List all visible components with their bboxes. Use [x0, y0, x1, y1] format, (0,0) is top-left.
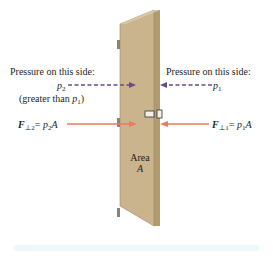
right-pressure-heading: Pressure on this side: [166, 66, 251, 77]
bottom-strip [14, 245, 259, 251]
right-force-label: F⊥1= p1A [212, 119, 252, 130]
door-handle-icon [157, 110, 162, 118]
left-force-label: F⊥2= p2A [18, 119, 58, 130]
hinge-middle-icon [117, 118, 120, 127]
door-area-label: Area A [128, 152, 152, 174]
door-face [120, 10, 154, 226]
right-pressure-label: p1 [213, 80, 222, 91]
hinge-bottom-icon [117, 208, 120, 217]
left-pressure-label: p2 [57, 80, 66, 91]
left-pressure-note: (greater than p1) [19, 93, 84, 104]
hinge-top-icon [117, 40, 120, 49]
left-pressure-heading: Pressure on this side: [10, 66, 95, 77]
door-diagram [0, 0, 273, 261]
pressure-arrowhead-right-icon [160, 82, 167, 88]
force-arrowhead-right-icon [160, 121, 168, 127]
door-latch-icon [145, 111, 154, 117]
